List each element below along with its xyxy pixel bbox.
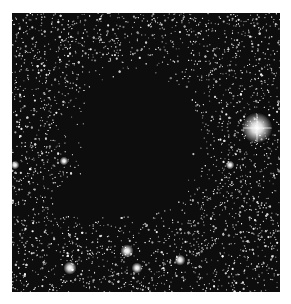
star-field-photo [12,13,280,292]
star-field-canvas [12,13,280,292]
